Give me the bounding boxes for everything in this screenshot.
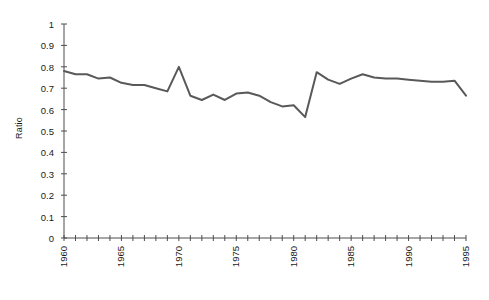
axes-group xyxy=(61,24,466,241)
chart-container: Ratio 00.10.20.30.40.50.60.70.80.91 1960… xyxy=(0,0,489,300)
data-series-line xyxy=(64,67,466,117)
plot-area xyxy=(0,0,489,300)
